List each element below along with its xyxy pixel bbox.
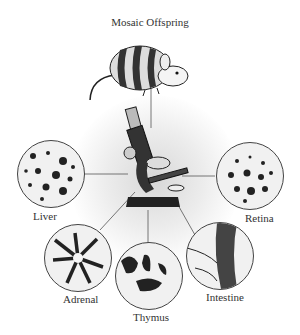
title: Mosaic Offspring bbox=[0, 16, 300, 28]
retina-tissue-icon bbox=[217, 143, 283, 209]
label-intestine: Intestine bbox=[206, 291, 244, 303]
mouse-icon bbox=[85, 30, 195, 100]
adrenal-tissue-icon bbox=[45, 225, 111, 291]
thymus-tissue-icon bbox=[116, 243, 182, 309]
thymus-circle bbox=[115, 242, 183, 310]
adrenal-circle bbox=[44, 224, 112, 292]
label-liver: Liver bbox=[33, 210, 57, 222]
intestine-circle bbox=[186, 222, 254, 290]
intestine-tissue-icon bbox=[187, 223, 253, 289]
liver-circle bbox=[17, 140, 85, 208]
microscope-icon bbox=[118, 105, 198, 210]
label-retina: Retina bbox=[245, 212, 274, 224]
label-thymus: Thymus bbox=[133, 311, 169, 323]
liver-tissue-icon bbox=[18, 141, 84, 207]
diagram: Mosaic Offspring Liver bbox=[0, 0, 300, 335]
retina-circle bbox=[216, 142, 284, 210]
label-adrenal: Adrenal bbox=[63, 293, 98, 305]
